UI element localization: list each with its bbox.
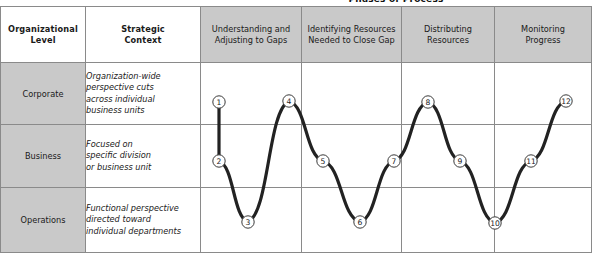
header-phase-understanding: Understanding and Adjusting to Gaps (201, 7, 302, 63)
header-level-line2: Level (30, 35, 55, 45)
table-header-row: Organizational Level Strategic Context U… (1, 7, 592, 63)
plot-cell-operations-phase3 (402, 187, 495, 252)
header-phase-distributing: Distributing Resources (402, 7, 495, 63)
context-corporate-line4: business units (86, 105, 144, 115)
header-phase-4-line1: Monitoring (521, 24, 565, 34)
context-operations-line3: individual departments (86, 226, 181, 236)
level-business: Business (1, 125, 86, 187)
context-operations-line2: directed toward (86, 214, 151, 224)
context-corporate-line1: Organization-wide (86, 71, 161, 81)
header-phase-1-line2: Adjusting to Gaps (215, 35, 288, 45)
header-context-line2: Context (124, 35, 161, 45)
header-phase-2-line2: Needed to Close Gap (308, 35, 395, 45)
header-phase-2-line1: Identifying Resources (308, 24, 396, 34)
context-business-line2: specific division (86, 150, 151, 160)
plot-cell-operations-phase2 (302, 187, 402, 252)
process-matrix-table: Organizational Level Strategic Context U… (0, 6, 592, 253)
header-phase-identifying: Identifying Resources Needed to Close Ga… (302, 7, 402, 63)
header-context-line1: Strategic (121, 24, 165, 34)
table-row: Business Focused on specific division or… (1, 125, 592, 187)
header-phase-1-line1: Understanding and (212, 24, 290, 34)
header-phase-monitoring: Monitoring Progress (495, 7, 592, 63)
plot-cell-corporate-phase4 (495, 63, 592, 125)
context-operations-line1: Functional perspective (86, 203, 179, 213)
plot-cell-business-phase1 (201, 125, 302, 187)
context-business-line1: Focused on (86, 139, 133, 149)
plot-cell-corporate-phase2 (302, 63, 402, 125)
plot-cell-operations-phase4 (495, 187, 592, 252)
context-business-line3: or business unit (86, 162, 151, 172)
header-level-line1: Organizational (8, 24, 78, 34)
header-strategic-context: Strategic Context (86, 7, 201, 63)
level-corporate: Corporate (1, 63, 86, 125)
plot-cell-business-phase2 (302, 125, 402, 187)
plot-cell-corporate-phase1 (201, 63, 302, 125)
context-corporate-line2: perspective cuts (86, 82, 154, 92)
plot-cell-operations-phase1 (201, 187, 302, 252)
context-business: Focused on specific division or business… (86, 125, 201, 187)
context-operations: Functional perspective directed toward i… (86, 187, 201, 252)
process-phases-figure: Phases of Process Organizational Level S… (0, 0, 592, 255)
context-corporate-line3: across individual (86, 94, 155, 104)
header-phase-4-line2: Progress (526, 35, 561, 45)
level-operations: Operations (1, 187, 86, 252)
plot-cell-corporate-phase3 (402, 63, 495, 125)
table-row: Corporate Organization-wide perspective … (1, 63, 592, 125)
figure-super-title: Phases of Process (200, 0, 592, 4)
header-phase-3-line1: Distributing (424, 24, 472, 34)
plot-cell-business-phase4 (495, 125, 592, 187)
header-phase-3-line2: Resources (427, 35, 469, 45)
plot-cell-business-phase3 (402, 125, 495, 187)
table-row: Operations Functional perspective direct… (1, 187, 592, 252)
header-organizational-level: Organizational Level (1, 7, 86, 63)
context-corporate: Organization-wide perspective cuts acros… (86, 63, 201, 125)
